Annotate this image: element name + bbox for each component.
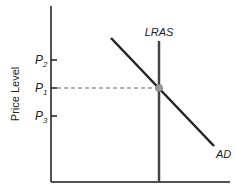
lras-label: LRAS xyxy=(145,26,174,38)
equilibrium-point xyxy=(156,85,163,92)
y-axis-label: Price Level xyxy=(9,67,21,121)
ad-curve xyxy=(111,38,214,146)
label-p3: P3 xyxy=(35,109,48,125)
label-p2: P2 xyxy=(35,53,48,69)
ad-lras-diagram: Price Level P2 P1 P3 LRAS AD xyxy=(0,0,238,192)
ad-label: AD xyxy=(215,148,231,160)
label-p1: P1 xyxy=(35,81,47,97)
